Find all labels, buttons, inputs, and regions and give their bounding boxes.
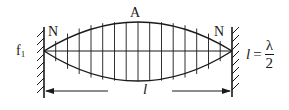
arrowhead-left-icon <box>45 88 54 94</box>
formula-denominator: 2 <box>266 55 274 71</box>
length-formula: l = λ 2 <box>246 38 274 71</box>
arrowhead-right-icon <box>222 88 231 94</box>
length-label: l <box>143 82 147 97</box>
frequency-label: f1 <box>16 44 25 59</box>
frequency-subscript: 1 <box>21 49 26 59</box>
right-node-label: N <box>214 25 224 39</box>
length-dimension <box>45 88 231 94</box>
left-fixed-wall <box>37 27 44 98</box>
antinode-label: A <box>130 6 140 20</box>
formula-numerator: λ <box>265 38 274 55</box>
formula-equals: = <box>253 46 261 63</box>
formula-fraction: λ 2 <box>265 38 274 71</box>
left-node-label: N <box>48 25 58 39</box>
formula-lhs: l <box>246 46 250 63</box>
right-fixed-wall <box>232 27 239 97</box>
